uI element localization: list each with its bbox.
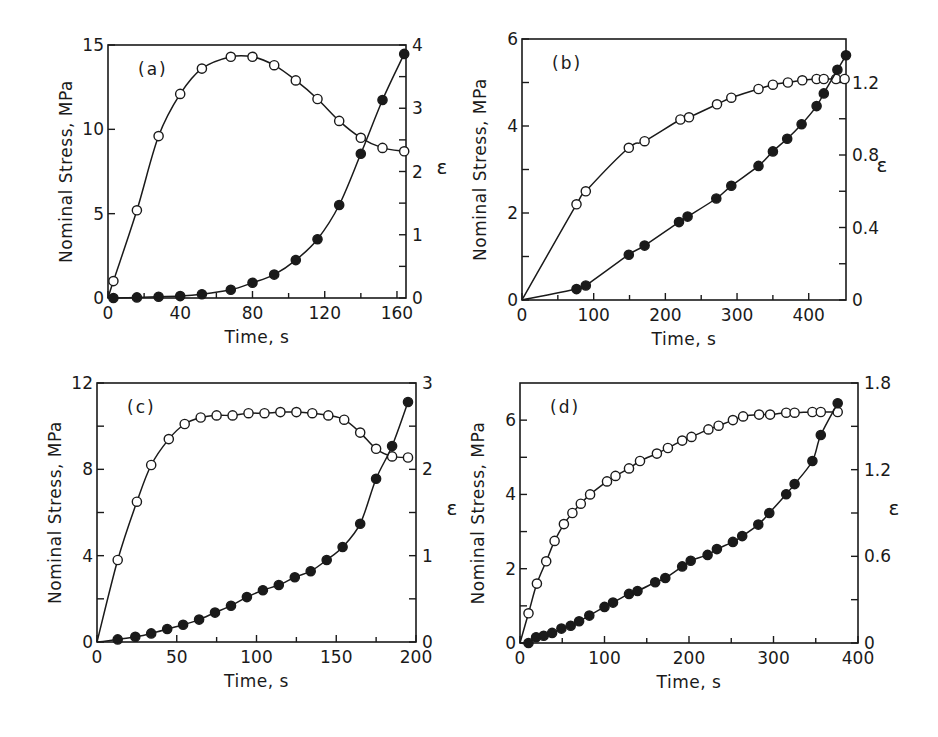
open-circle-marker [180, 419, 189, 428]
y-tick-label: 5 [93, 204, 104, 224]
open-circle-marker [260, 409, 269, 418]
open-circle-marker [684, 113, 693, 122]
open-circle-marker [132, 206, 141, 215]
y-tick-label: 4 [505, 484, 516, 504]
y-right-tick-label: 0 [412, 288, 423, 308]
filled-circle-marker [291, 256, 300, 265]
filled-circle-marker [608, 598, 617, 607]
plot-frame [97, 383, 416, 642]
filled-circle-marker [306, 567, 315, 576]
open-circle-marker [378, 143, 387, 152]
x-tick-label: 200 [649, 305, 681, 325]
filled-circle-marker [132, 293, 141, 302]
open-circle-marker [550, 536, 559, 545]
open-circle-marker [840, 74, 849, 83]
chart-panel-c: 050100150200Time, s04812Nominal Stress, … [45, 373, 457, 691]
open-circle-marker [154, 132, 163, 141]
open-circle-marker [164, 435, 173, 444]
panel-label: (c) [127, 397, 156, 417]
open-circle-marker [176, 89, 185, 98]
open-circle-marker [586, 490, 595, 499]
x-tick-label: 0 [92, 647, 103, 667]
y-axis-left: 04812Nominal Stress, MPa [45, 373, 104, 652]
open-circle-marker [524, 609, 533, 618]
y-tick-label: 0 [82, 632, 93, 652]
series-stress [520, 407, 842, 643]
x-tick-label: 150 [320, 647, 352, 667]
panel-label: (d) [550, 397, 580, 417]
open-circle-marker [572, 200, 581, 209]
open-circle-marker [766, 410, 775, 419]
filled-circle-marker [270, 270, 279, 279]
filled-circle-marker [176, 292, 185, 301]
y-right-tick-label: 2 [412, 162, 423, 182]
open-circle-marker [559, 520, 568, 529]
filled-circle-marker [581, 281, 590, 290]
filled-circle-marker [566, 621, 575, 630]
y-right-tick-label: 1.8 [864, 373, 891, 393]
y-axis-title: Nominal Stress, MPa [45, 421, 65, 604]
filled-circle-marker [356, 519, 365, 528]
filled-circle-marker [372, 474, 381, 483]
filled-circle-marker [242, 593, 251, 602]
filled-circle-marker [572, 285, 581, 294]
y-axis-title: Nominal Stress, MPa [468, 422, 488, 605]
open-circle-marker [816, 407, 825, 416]
filled-circle-marker [728, 537, 737, 546]
filled-circle-marker [661, 573, 670, 582]
x-tick-label: 0 [515, 648, 526, 668]
y-tick-label: 4 [82, 546, 93, 566]
filled-circle-marker [258, 586, 267, 595]
open-circle-marker [113, 555, 122, 564]
chart-panel-d: 0100200300400Time, s0246Nominal Stress, … [468, 373, 899, 692]
x-tick-label: 120 [309, 303, 341, 323]
open-circle-marker [109, 277, 118, 286]
filled-circle-marker [585, 611, 594, 620]
open-circle-marker [819, 74, 828, 83]
y-axis-left: 051015Nominal Stress, MPa [56, 35, 115, 308]
filled-circle-marker [686, 556, 695, 565]
filled-circle-marker [783, 134, 792, 143]
y-axis-title: Nominal Stress, MPa [470, 78, 490, 261]
filled-circle-marker [754, 520, 763, 529]
filled-circle-marker [248, 278, 257, 287]
open-circle-marker [687, 432, 696, 441]
open-circle-marker [532, 579, 541, 588]
plot-frame [522, 39, 846, 300]
open-circle-marker [783, 78, 792, 87]
open-circle-marker [678, 436, 687, 445]
open-circle-marker [292, 408, 301, 417]
open-circle-marker [790, 408, 799, 417]
open-circle-marker [276, 408, 285, 417]
filled-circle-marker [226, 601, 235, 610]
open-circle-marker [755, 410, 764, 419]
y-right-axis-title: ε [447, 496, 458, 520]
series-strain [108, 49, 409, 302]
x-tick-label: 100 [588, 648, 620, 668]
y-right-tick-label: 4 [412, 35, 423, 55]
y-axis-title: Nominal Stress, MPa [56, 80, 76, 263]
x-tick-label: 50 [166, 647, 188, 667]
open-circle-marker [739, 412, 748, 421]
filled-circle-marker [600, 602, 609, 611]
y-right-tick-label: 1 [412, 225, 423, 245]
open-circle-marker [635, 456, 644, 465]
x-tick-label: 400 [792, 305, 824, 325]
filled-circle-marker [403, 397, 412, 406]
filled-circle-marker [400, 49, 409, 58]
y-tick-label: 0 [505, 633, 516, 653]
y-tick-label: 10 [82, 119, 104, 139]
x-axis-title: Time, s [223, 671, 289, 691]
x-tick-label: 300 [721, 305, 753, 325]
x-tick-label: 0 [517, 305, 528, 325]
open-circle-marker [132, 497, 141, 506]
y-right-tick-label: 0 [864, 633, 875, 653]
filled-circle-marker [754, 161, 763, 170]
panel-label: (b) [552, 53, 582, 73]
filled-circle-marker [833, 65, 842, 74]
open-circle-marker [400, 147, 409, 156]
open-circle-marker [576, 499, 585, 508]
y-right-tick-label: 1.2 [852, 73, 879, 93]
y-tick-label: 2 [507, 203, 518, 223]
open-circle-marker [798, 76, 807, 85]
